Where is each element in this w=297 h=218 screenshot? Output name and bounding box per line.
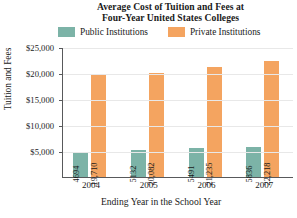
- y-axis-tick-label: $20,000: [26, 70, 54, 79]
- bars-layer: 469419,710513220,082549121,235583622,218: [63, 48, 293, 177]
- legend-label-private: Private Institutions: [190, 27, 261, 37]
- chart-figure: Average Cost of Tuition and Fees at Four…: [0, 0, 297, 218]
- gridline: [63, 100, 293, 101]
- legend-item-public: Public Institutions: [58, 27, 148, 37]
- chart-title: Average Cost of Tuition and Fees at Four…: [48, 1, 293, 24]
- y-axis-tick: [59, 48, 63, 49]
- bar-group: 469419,710: [63, 48, 121, 177]
- y-axis-tick: [59, 74, 63, 75]
- y-axis-tick-label: $10,000: [26, 122, 54, 131]
- bar: 21,235: [207, 67, 222, 177]
- x-axis-tick-label: 2005: [140, 180, 158, 190]
- bar: 5132: [131, 150, 146, 177]
- plot-area: 469419,710513220,082549121,235583622,218: [62, 48, 293, 178]
- bar-group: 513220,082: [121, 48, 179, 177]
- y-axis-tick-label: $25,000: [26, 44, 54, 53]
- bar: 4694: [73, 153, 88, 177]
- gridline: [63, 126, 293, 127]
- legend-swatch-private-icon: [168, 27, 185, 37]
- chart-title-line-2: Four-Year United States Colleges: [48, 12, 293, 23]
- legend-label-public: Public Institutions: [80, 27, 148, 37]
- y-axis-tick-label: $15,000: [26, 96, 54, 105]
- bar-group: 583622,218: [236, 48, 294, 177]
- gridline: [63, 74, 293, 75]
- bar-group: 549121,235: [179, 48, 237, 177]
- y-axis-tick: [59, 100, 63, 101]
- y-axis-tick: [59, 152, 63, 153]
- x-axis-tick-labels: 2004200520062007: [62, 180, 293, 192]
- y-axis-tick-label: $5,000: [30, 148, 54, 157]
- bar: 22,218: [264, 61, 279, 177]
- legend-swatch-public-icon: [58, 27, 75, 37]
- y-axis-title: Tuition and Fees: [3, 24, 13, 134]
- gridline: [63, 48, 293, 49]
- x-axis-tick-label: 2004: [82, 180, 100, 190]
- x-axis-title: Ending Year in the School Year: [30, 196, 292, 207]
- gridline: [63, 152, 293, 153]
- bar: 20,082: [149, 73, 164, 177]
- x-axis-tick-label: 2007: [255, 180, 273, 190]
- y-axis-tick: [59, 126, 63, 127]
- legend-item-private: Private Institutions: [168, 27, 261, 37]
- chart-legend: Public Institutions Private Institutions: [58, 25, 294, 38]
- chart-title-line-1: Average Cost of Tuition and Fees at: [48, 1, 293, 12]
- x-axis-tick-label: 2006: [197, 180, 215, 190]
